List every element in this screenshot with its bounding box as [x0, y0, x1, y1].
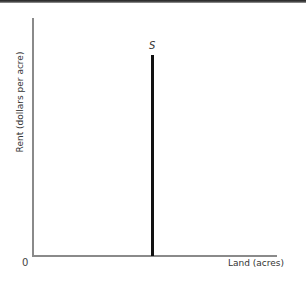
y-axis	[32, 18, 34, 256]
top-border	[0, 0, 306, 3]
y-axis-label: Rent (dollars per acre)	[15, 42, 25, 162]
origin-label: 0	[22, 257, 28, 268]
supply-curve	[151, 55, 154, 256]
x-axis-label: Land (acres)	[228, 258, 284, 268]
x-axis	[32, 255, 277, 257]
supply-curve-label: S	[149, 40, 155, 51]
